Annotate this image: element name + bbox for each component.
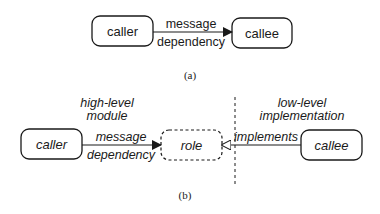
b-caption: (b) bbox=[179, 190, 192, 201]
b-left-title-line2: module bbox=[87, 110, 128, 123]
b-callee-label: callee bbox=[301, 130, 362, 160]
a-caller-label: caller bbox=[92, 16, 153, 46]
b-role-label: role bbox=[161, 130, 222, 160]
diagram-canvas: caller callee message dependency (a) hig… bbox=[0, 0, 380, 214]
a-callee-label: callee bbox=[232, 18, 292, 48]
b-edge-label-implements: implements bbox=[234, 131, 298, 144]
b-edge-label-dependency: dependency bbox=[87, 149, 155, 162]
a-edge-label-message: message bbox=[166, 18, 217, 31]
b-right-title-line1: low-level bbox=[278, 97, 327, 110]
a-caption: (a) bbox=[184, 70, 196, 81]
a-edge-label-dependency: dependency bbox=[157, 36, 225, 49]
b-right-title-line2: implementation bbox=[260, 110, 345, 123]
b-caller-label: caller bbox=[21, 129, 82, 159]
b-left-title-line1: high-level bbox=[80, 97, 134, 110]
b-edge-label-message: message bbox=[96, 131, 147, 144]
